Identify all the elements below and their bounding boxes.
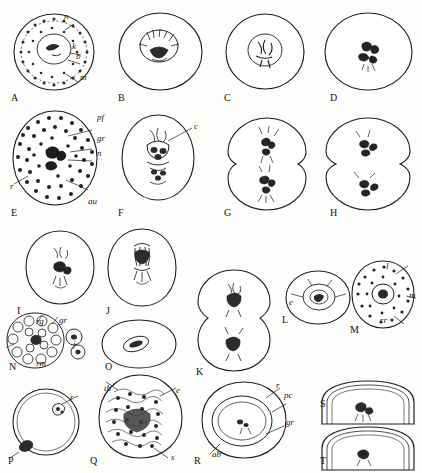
panel-label-D: D [330,92,338,103]
panel-label-B: B [118,92,125,103]
annotation-N-gr: gr [59,315,67,325]
annotation-T-m: m [360,448,367,458]
annotation-M-rr: rr [380,315,387,325]
annotation-R-ab: ab [212,449,221,459]
panel-J-figure [104,226,180,310]
panel-label-C: C [224,92,231,103]
panel-label-L: L [282,314,288,325]
panel-label-H: H [330,207,338,218]
annotation-Q-s: s [171,452,175,462]
annotation-A-b: b [76,51,81,61]
annotation-A-n: n [64,11,69,21]
annotation-R-gr: gr [286,417,294,427]
annotation-M-l: l [386,261,389,271]
panel-K-figure [192,268,276,374]
annotation-A-m: m [80,72,87,82]
panel-T-figure [318,424,418,472]
panel-label-T: T [320,455,326,466]
panel-S-figure [318,378,418,426]
panel-label-N: N [9,361,17,372]
annotation-P-r: r [70,392,74,402]
annotation-E-gr: gr [97,133,105,143]
annotation-A-k: k [72,41,76,51]
annotation-R-r: r [276,380,280,390]
panel-label-A: A [11,92,19,103]
panel-label-F: F [118,207,124,218]
annotation-E-au: au [88,196,97,206]
panel-label-E: E [11,207,17,218]
annotation-Q-e: e [176,385,180,395]
panel-label-P: P [8,455,14,466]
panel-label-Q: Q [90,455,98,466]
panel-H-figure [320,116,416,212]
panel-label-J: J [106,305,110,316]
annotation-E-r: r [10,181,14,191]
panel-D-figure [320,10,416,94]
annotation-E-pf: pf [97,112,104,122]
panel-F-figure [114,112,202,204]
annotation-F-c: c [194,121,198,131]
panel-N-figure [4,310,90,372]
annotation-M-m: m [409,290,416,300]
annotation-N-j: j [73,339,76,349]
annotation-R-pc: pc [284,390,293,400]
panel-label-G: G [224,207,232,218]
panel-R-figure [196,378,292,462]
cytology-plate: A n k b m B C [0,0,422,473]
panel-A-figure [8,8,104,96]
annotation-N-rg: rg [36,316,44,326]
panel-G-figure [222,116,312,212]
panel-label-M: M [350,324,359,335]
annotation-E-n: n [97,148,102,158]
annotation-N-rm: rm [36,358,46,368]
panel-P-figure [6,386,88,460]
panel-label-O: O [105,361,113,372]
panel-label-K: K [196,366,204,377]
panel-B-figure [114,10,206,94]
panel-E-figure [8,108,104,208]
annotation-Q-th: th [104,383,111,393]
panel-label-S: S [320,398,326,409]
panel-C-figure [222,12,308,92]
annotation-L-e: e [289,297,293,307]
panel-I-figure [22,228,98,308]
panel-label-R: R [194,455,201,466]
